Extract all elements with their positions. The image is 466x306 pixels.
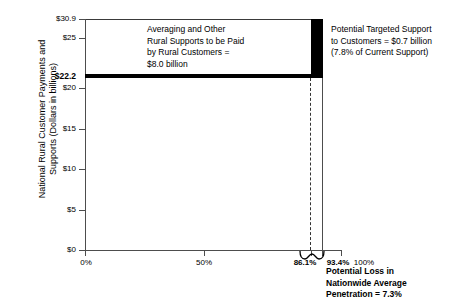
- x-tick-label-50: 50%: [196, 258, 212, 267]
- y-tick-label-10: $10: [63, 165, 76, 173]
- targeted-support-black-block: [311, 19, 323, 78]
- y-tick-label-15: $15: [63, 125, 76, 133]
- x-tick-mark: [341, 250, 342, 256]
- y-tick-label-22-2: $22.2: [55, 72, 76, 80]
- y-tick-mark: [79, 169, 86, 170]
- annotation-potential-loss-in-penetration: Potential Loss in Nationwide Average Pen…: [326, 266, 407, 301]
- y-tick-mark: [79, 19, 86, 20]
- y-tick-label-25: $25: [63, 34, 76, 42]
- current-support-level-line: [85, 74, 323, 78]
- squiggle-brace-icon: [298, 250, 328, 262]
- y-axis-title: National Rural Customer Payments and Sup…: [37, 4, 59, 234]
- y-axis-line: [85, 19, 86, 251]
- chart-top-boundary-line: [85, 19, 323, 20]
- y-tick-mark: [79, 88, 86, 89]
- y-tick-label-0: $0: [67, 246, 76, 254]
- annotation-potential-targeted-support: Potential Targeted Support to Customers …: [331, 24, 432, 59]
- y-tick-label-20: $20: [63, 84, 76, 92]
- penetration-threshold-dashed-line: [310, 78, 311, 250]
- x-tick-label-0: 0%: [80, 258, 92, 267]
- y-tick-mark: [79, 129, 86, 130]
- annotation-averaging-and-other-rural-supports: Averaging and Other Rural Supports to be…: [147, 24, 244, 70]
- y-tick-mark: [79, 38, 86, 39]
- x-tick-mark: [85, 250, 86, 256]
- y-tick-label-30-9: $30.9: [56, 15, 76, 23]
- y-tick-mark: [79, 210, 86, 211]
- y-tick-label-5: $5: [67, 206, 76, 214]
- x-tick-mark: [204, 250, 205, 256]
